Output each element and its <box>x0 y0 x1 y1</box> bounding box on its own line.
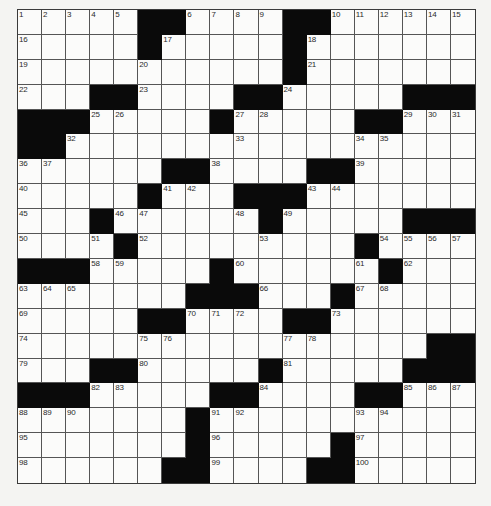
grid-cell[interactable]: 78 <box>307 334 331 359</box>
grid-cell[interactable] <box>283 110 307 135</box>
grid-cell[interactable]: 52 <box>138 234 162 259</box>
grid-cell[interactable] <box>283 383 307 408</box>
grid-cell[interactable] <box>283 458 307 483</box>
grid-cell[interactable]: 2 <box>42 10 66 35</box>
grid-cell[interactable] <box>355 60 379 85</box>
grid-cell[interactable] <box>451 408 475 433</box>
grid-cell[interactable] <box>162 408 186 433</box>
grid-cell[interactable] <box>162 234 186 259</box>
grid-cell[interactable]: 21 <box>307 60 331 85</box>
grid-cell[interactable] <box>451 60 475 85</box>
grid-cell[interactable] <box>114 184 138 209</box>
grid-cell[interactable] <box>283 134 307 159</box>
grid-cell[interactable] <box>259 259 283 284</box>
grid-cell[interactable] <box>307 85 331 110</box>
grid-cell[interactable]: 70 <box>186 309 210 334</box>
grid-cell[interactable]: 71 <box>210 309 234 334</box>
grid-cell[interactable] <box>355 85 379 110</box>
grid-cell[interactable] <box>403 284 427 309</box>
grid-cell[interactable]: 55 <box>403 234 427 259</box>
grid-cell[interactable] <box>451 259 475 284</box>
grid-cell[interactable]: 45 <box>18 209 42 234</box>
grid-cell[interactable] <box>66 85 90 110</box>
grid-cell[interactable]: 13 <box>403 10 427 35</box>
grid-cell[interactable]: 87 <box>451 383 475 408</box>
grid-cell[interactable] <box>331 110 355 135</box>
grid-cell[interactable]: 30 <box>427 110 451 135</box>
grid-cell[interactable] <box>186 110 210 135</box>
grid-cell[interactable] <box>379 184 403 209</box>
grid-cell[interactable]: 83 <box>114 383 138 408</box>
grid-cell[interactable] <box>114 309 138 334</box>
grid-cell[interactable] <box>427 134 451 159</box>
grid-cell[interactable] <box>234 458 258 483</box>
grid-cell[interactable]: 31 <box>451 110 475 135</box>
grid-cell[interactable] <box>331 85 355 110</box>
grid-cell[interactable]: 7 <box>210 10 234 35</box>
grid-cell[interactable]: 28 <box>259 110 283 135</box>
grid-cell[interactable] <box>162 359 186 384</box>
grid-cell[interactable] <box>186 383 210 408</box>
grid-cell[interactable] <box>331 209 355 234</box>
grid-cell[interactable] <box>138 134 162 159</box>
grid-cell[interactable]: 92 <box>234 408 258 433</box>
grid-cell[interactable] <box>162 134 186 159</box>
grid-cell[interactable] <box>403 408 427 433</box>
grid-cell[interactable]: 40 <box>18 184 42 209</box>
grid-cell[interactable] <box>42 35 66 60</box>
grid-cell[interactable] <box>283 159 307 184</box>
grid-cell[interactable] <box>451 184 475 209</box>
grid-cell[interactable] <box>90 159 114 184</box>
grid-cell[interactable] <box>379 433 403 458</box>
grid-cell[interactable]: 42 <box>186 184 210 209</box>
grid-cell[interactable]: 63 <box>18 284 42 309</box>
grid-cell[interactable] <box>283 408 307 433</box>
grid-cell[interactable] <box>114 35 138 60</box>
grid-cell[interactable]: 93 <box>355 408 379 433</box>
grid-cell[interactable] <box>138 408 162 433</box>
grid-cell[interactable] <box>427 433 451 458</box>
grid-cell[interactable]: 85 <box>403 383 427 408</box>
grid-cell[interactable]: 36 <box>18 159 42 184</box>
grid-cell[interactable] <box>210 60 234 85</box>
grid-cell[interactable] <box>42 234 66 259</box>
grid-cell[interactable] <box>90 184 114 209</box>
grid-cell[interactable]: 50 <box>18 234 42 259</box>
grid-cell[interactable] <box>379 458 403 483</box>
grid-cell[interactable] <box>379 85 403 110</box>
grid-cell[interactable] <box>379 35 403 60</box>
grid-cell[interactable] <box>114 433 138 458</box>
grid-cell[interactable] <box>162 433 186 458</box>
grid-cell[interactable] <box>186 234 210 259</box>
grid-cell[interactable] <box>307 110 331 135</box>
grid-cell[interactable] <box>66 184 90 209</box>
grid-cell[interactable] <box>403 433 427 458</box>
grid-cell[interactable] <box>331 334 355 359</box>
grid-cell[interactable] <box>42 458 66 483</box>
grid-cell[interactable] <box>66 359 90 384</box>
grid-cell[interactable] <box>427 184 451 209</box>
grid-cell[interactable]: 46 <box>114 209 138 234</box>
grid-cell[interactable] <box>90 309 114 334</box>
grid-cell[interactable] <box>42 60 66 85</box>
grid-cell[interactable] <box>90 433 114 458</box>
grid-cell[interactable] <box>307 284 331 309</box>
grid-cell[interactable] <box>331 359 355 384</box>
grid-cell[interactable]: 67 <box>355 284 379 309</box>
grid-cell[interactable] <box>90 284 114 309</box>
grid-cell[interactable] <box>234 60 258 85</box>
grid-cell[interactable] <box>210 35 234 60</box>
grid-cell[interactable] <box>403 184 427 209</box>
grid-cell[interactable] <box>403 35 427 60</box>
grid-cell[interactable]: 38 <box>210 159 234 184</box>
grid-cell[interactable] <box>307 383 331 408</box>
grid-cell[interactable] <box>162 85 186 110</box>
grid-cell[interactable] <box>234 35 258 60</box>
grid-cell[interactable]: 84 <box>259 383 283 408</box>
grid-cell[interactable] <box>186 85 210 110</box>
grid-cell[interactable]: 3 <box>66 10 90 35</box>
grid-cell[interactable]: 100 <box>355 458 379 483</box>
grid-cell[interactable] <box>186 134 210 159</box>
grid-cell[interactable] <box>331 259 355 284</box>
grid-cell[interactable] <box>234 433 258 458</box>
